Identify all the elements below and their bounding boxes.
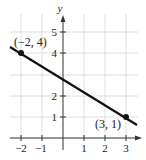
y-tick-label: 2 [52, 90, 58, 102]
point-label-b: (3, 1) [95, 117, 121, 131]
y-axis-arrow-icon [61, 15, 66, 22]
data-point-b [123, 114, 129, 120]
x-axis [10, 135, 142, 141]
y-tick-label: 4 [52, 47, 58, 59]
y-axis-label: y [57, 2, 63, 14]
point-label-a: (−2, 4) [14, 35, 47, 49]
y-tick-label: 1 [52, 111, 58, 123]
y-axis [60, 15, 66, 150]
x-tick-label: 1 [81, 142, 87, 154]
data-point-a [18, 50, 24, 56]
x-tick-label: −1 [35, 142, 47, 154]
y-tick-label: 5 [52, 26, 58, 38]
coordinate-plane: −2 −1 1 2 3 5 4 2 1 y (−2, 4) (3, 1) [0, 0, 146, 160]
x-tick-label: 3 [123, 142, 129, 154]
x-axis-arrow-icon [135, 136, 142, 141]
line-series [10, 47, 137, 125]
x-tick-label: 2 [102, 142, 108, 154]
x-tick-label: −2 [15, 142, 27, 154]
